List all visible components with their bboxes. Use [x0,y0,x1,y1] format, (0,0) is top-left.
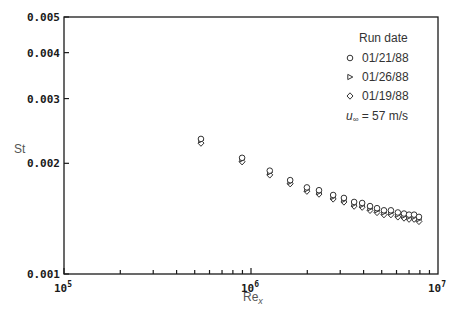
y-tick-label: 0.005 [27,11,60,24]
legend-item-label: 01/19/88 [362,89,409,103]
legend-item-label: 01/21/88 [362,51,409,65]
legend-item: 01/26/88 [348,70,409,84]
y-tick-label: 0.004 [27,47,60,60]
y-tick-label: 0.001 [27,268,60,281]
y-tick-label: 0.003 [27,93,60,106]
legend-item-label: 01/26/88 [362,70,409,84]
series-01-21-88 [198,136,422,220]
y-axis-ticks: 0.0010.0020.0030.0040.005 [27,11,69,281]
x-axis-label: Rex [243,290,263,306]
legend-annotation: u∞ = 57 m/s [346,109,408,124]
legend-title: Run date [359,31,408,45]
chart-canvas: 105106107 0.0010.0020.0030.0040.005 St R… [0,0,457,316]
y-axis-label: St [14,142,26,156]
x-tick-label: 107 [428,280,446,295]
legend-item: 01/21/88 [347,51,409,65]
legend-item: 01/19/88 [347,89,409,103]
y-tick-label: 0.002 [27,157,60,170]
x-tick-label: 105 [54,280,72,295]
data-points [198,136,422,224]
legend: Run date 01/21/8801/26/8801/19/88 u∞ = 5… [346,31,409,124]
